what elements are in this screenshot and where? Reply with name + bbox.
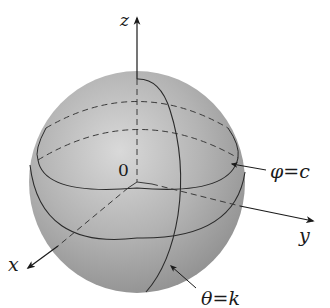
theta-equals-k-label: θ=k: [201, 289, 240, 308]
phi-equals-sign: =: [283, 160, 299, 182]
y-axis-label: y: [299, 226, 310, 245]
theta-symbol: θ: [201, 287, 212, 308]
phi-symbol: φ: [270, 160, 283, 182]
z-axis-label: z: [120, 12, 129, 29]
theta-equals-sign: =: [212, 287, 228, 308]
x-axis: [28, 246, 58, 268]
theta-value: k: [228, 287, 240, 308]
diagram-canvas: [0, 0, 330, 308]
x-axis-label: x: [8, 255, 19, 274]
y-axis: [240, 206, 313, 221]
origin-label: 0: [118, 162, 129, 179]
phi-value: c: [299, 160, 310, 182]
spherical-coordinates-diagram: z 0 y x φ=c θ=k: [0, 0, 330, 308]
phi-equals-c-label: φ=c: [270, 162, 310, 181]
